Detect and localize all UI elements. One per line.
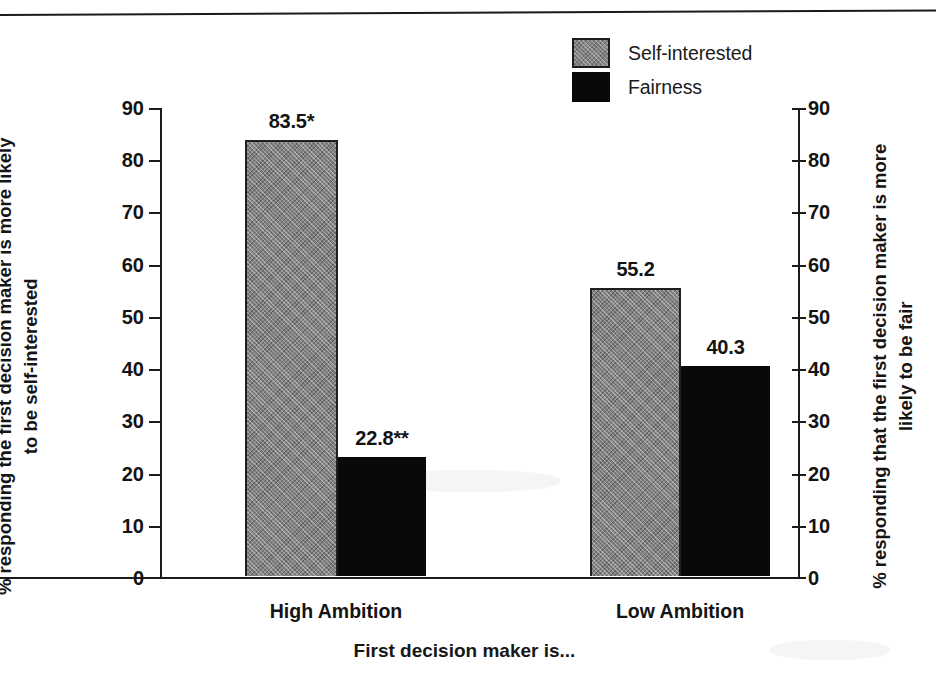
right-tick-label-50: 50 [808, 307, 830, 327]
right-tick-30 [792, 421, 806, 423]
legend-item-fairness: Fairness [572, 70, 832, 104]
right-axis-title-line1: % responding that the first decision mak… [867, 144, 893, 589]
left-tick-10 [149, 526, 160, 528]
bar-value-high-ambition-fairness: 22.8** [355, 427, 408, 450]
x-axis-title: First decision maker is... [0, 640, 929, 662]
right-tick-40 [792, 369, 806, 371]
left-tick-label-10: 10 [122, 516, 144, 536]
x-category-label-high-ambition: High Ambition [270, 600, 403, 623]
bar-value-low-ambition-self-interested: 55.2 [616, 258, 654, 281]
left-tick-label-30: 30 [122, 411, 144, 431]
legend-item-self-interested: Self-interested [572, 36, 832, 70]
left-axis-title: % responding the first decision maker is… [0, 138, 44, 596]
bar-low-ambition-self-interested[interactable]: 55.2 [590, 288, 681, 576]
x-category-label-low-ambition: Low Ambition [616, 600, 744, 623]
right-tick-label-80: 80 [808, 150, 830, 170]
left-tick-label-40: 40 [122, 359, 144, 379]
left-tick-label-20: 20 [122, 464, 144, 484]
left-tick-label-80: 80 [122, 150, 144, 170]
left-tick-80 [149, 160, 160, 162]
left-tick-label-60: 60 [122, 255, 144, 275]
left-axis-title-line1: % responding the first decision maker is… [0, 138, 18, 596]
bar-low-ambition-fairness[interactable]: 40.3 [681, 366, 770, 576]
right-tick-20 [792, 474, 806, 476]
right-tick-70 [792, 212, 806, 214]
right-tick-label-90: 90 [808, 98, 830, 118]
bar-value-low-ambition-fairness: 40.3 [706, 336, 744, 359]
legend-swatch-fairness-icon [572, 72, 610, 102]
plot-area: 90 80 70 60 50 40 30 20 10 0 90 80 70 60… [160, 108, 800, 578]
right-tick-label-60: 60 [808, 255, 830, 275]
left-tick-20 [149, 474, 160, 476]
x-axis-baseline [0, 577, 800, 579]
right-tick-0 [792, 577, 806, 579]
left-tick-60 [149, 265, 160, 267]
left-tick-70 [149, 212, 160, 214]
left-tick-label-50: 50 [122, 307, 144, 327]
left-axis-title-line2: to be self-interested [18, 138, 44, 596]
left-tick-label-90: 90 [122, 98, 144, 118]
right-tick-90 [792, 108, 806, 110]
right-axis-title: % responding that the first decision mak… [867, 144, 920, 589]
left-tick-40 [149, 369, 160, 371]
bar-high-ambition-self-interested[interactable]: 83.5* [245, 140, 338, 576]
right-tick-label-10: 10 [808, 516, 830, 536]
left-tick-label-70: 70 [122, 202, 144, 222]
right-tick-60 [792, 265, 806, 267]
bar-value-high-ambition-self-interested: 83.5* [269, 110, 315, 133]
right-tick-label-70: 70 [808, 202, 830, 222]
right-axis-line [798, 108, 800, 579]
legend-label-self-interested: Self-interested [628, 42, 752, 65]
right-axis-title-line2: likely to be fair [893, 144, 919, 589]
right-tick-label-30: 30 [808, 411, 830, 431]
bar-high-ambition-fairness[interactable]: 22.8** [338, 457, 426, 576]
right-tick-10 [792, 526, 806, 528]
right-tick-50 [792, 317, 806, 319]
left-tick-90 [149, 108, 160, 110]
left-axis-line [160, 108, 162, 579]
legend-label-fairness: Fairness [628, 76, 702, 99]
left-tick-label-0: 0 [133, 568, 144, 588]
legend-swatch-self-interested-icon [572, 38, 610, 68]
right-tick-80 [792, 160, 806, 162]
right-tick-label-20: 20 [808, 464, 830, 484]
left-tick-30 [149, 421, 160, 423]
right-tick-label-0: 0 [808, 568, 819, 588]
left-tick-50 [149, 317, 160, 319]
chart-legend: Self-interested Fairness [572, 36, 832, 104]
right-tick-label-40: 40 [808, 359, 830, 379]
